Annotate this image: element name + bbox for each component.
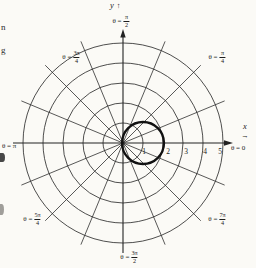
ink-smudge: [0, 153, 5, 162]
ink-smudge: [0, 204, 4, 215]
theta-5pi-over-4-label: θ = 5π 4: [23, 212, 40, 227]
stray-text-fragment: g: [1, 46, 6, 55]
fraction: 7π 4: [219, 212, 225, 227]
y-axis-label: y ↑: [110, 1, 121, 10]
fraction-numerator: 3π: [73, 50, 79, 57]
theta-pi-over-4-label: θ = π 4: [208, 50, 225, 65]
radial-grid-line: [45, 143, 123, 221]
theta-3pi-over-2-label: θ = 3π 2: [120, 250, 137, 265]
right-arrow-icon: →: [241, 132, 249, 140]
radial-grid-line: [123, 143, 201, 221]
x-tick-4: 4: [203, 148, 207, 156]
y-axis-arrowhead: [120, 29, 125, 38]
radial-grid-line: [21, 143, 123, 185]
theta-zero-label: θ = 0: [231, 145, 245, 152]
theta-7pi-over-4-label: θ = 7π 4: [208, 212, 225, 227]
fraction-numerator: 3π: [131, 250, 137, 257]
theta-pi-over-2-label: θ = π 2: [112, 14, 129, 29]
polar-grid-svg: [0, 0, 256, 268]
fraction-denominator: 2: [131, 257, 137, 265]
fraction: 5π 4: [34, 212, 40, 227]
fraction-numerator: 5π: [34, 212, 40, 219]
fraction: π 4: [219, 50, 225, 65]
radial-grid-line: [81, 143, 123, 245]
fraction-numerator: 7π: [219, 212, 225, 219]
fraction: 3π 4: [73, 50, 79, 65]
x-tick-2: 2: [166, 148, 170, 156]
x-axis-label: x →: [241, 122, 249, 139]
stray-text-fragment: n: [1, 23, 6, 32]
x-variable: x: [243, 122, 247, 131]
theta-prefix: θ =: [62, 54, 71, 61]
radial-grid-line: [123, 65, 201, 143]
x-tick-3: 3: [184, 148, 188, 156]
up-arrow-icon: ↑: [117, 2, 121, 10]
theta-prefix: θ =: [23, 216, 32, 223]
fraction-denominator: 4: [219, 219, 225, 227]
y-variable: y: [110, 1, 114, 10]
radial-grid-line: [45, 65, 123, 143]
polar-figure: n g y ↑ θ = π 2 θ = 3π 4 θ = π 4 θ = π θ…: [0, 0, 256, 268]
fraction-denominator: 2: [123, 21, 129, 29]
fraction-denominator: 4: [219, 57, 225, 65]
theta-pi-label: θ = π: [2, 143, 16, 150]
radial-grid-line: [21, 101, 123, 143]
theta-prefix: θ =: [112, 18, 121, 25]
theta-prefix: θ =: [208, 54, 217, 61]
theta-3pi-over-4-label: θ = 3π 4: [62, 50, 79, 65]
fraction: 3π 2: [131, 250, 137, 265]
fraction-numerator: π: [125, 14, 128, 21]
fraction-denominator: 4: [34, 219, 40, 227]
x-tick-1: 1: [142, 148, 146, 156]
fraction-numerator: π: [221, 50, 224, 57]
theta-prefix: θ =: [208, 216, 217, 223]
theta-prefix: θ =: [120, 254, 129, 261]
fraction: π 2: [123, 14, 129, 29]
fraction-denominator: 4: [73, 57, 79, 65]
x-tick-5: 5: [218, 148, 222, 156]
radial-grid-line: [81, 41, 123, 143]
